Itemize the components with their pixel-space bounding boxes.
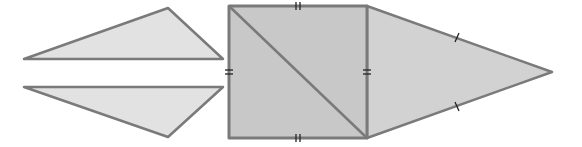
- left-bottom-triangle: [24, 87, 223, 137]
- right-isosceles-triangle: [367, 6, 552, 138]
- geometry-diagram: [0, 0, 582, 147]
- left-top-triangle: [24, 8, 223, 59]
